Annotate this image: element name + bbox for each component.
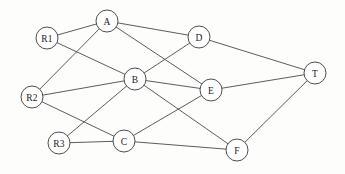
node-circle-d[interactable] — [188, 26, 210, 48]
graph-node-b[interactable]: B — [124, 68, 146, 90]
node-circle-r1[interactable] — [36, 27, 58, 49]
graph-node-d[interactable]: D — [188, 26, 210, 48]
graph-node-f[interactable]: F — [226, 139, 248, 161]
graph-node-r2[interactable]: R2 — [21, 86, 43, 108]
node-circle-e[interactable] — [200, 79, 222, 101]
graph-node-c[interactable]: C — [113, 130, 135, 152]
graph-edge-e-t — [222, 75, 304, 88]
node-circle-c[interactable] — [113, 130, 135, 152]
node-circle-a[interactable] — [96, 10, 118, 32]
node-circle-r2[interactable] — [21, 86, 43, 108]
edge-layer — [40, 23, 307, 149]
graph-node-e[interactable]: E — [200, 79, 222, 101]
graph-node-r1[interactable]: R1 — [36, 27, 58, 49]
node-circle-t[interactable] — [304, 62, 326, 84]
graph-edge-r2-c — [42, 102, 114, 137]
graph-edge-r1-b — [57, 43, 125, 75]
graph-edge-r2-b — [43, 81, 124, 95]
graph-edge-c-f — [135, 142, 226, 149]
node-circle-f[interactable] — [226, 139, 248, 161]
graph-node-r3[interactable]: R3 — [48, 132, 70, 154]
graph-canvas: R1R2R3ABCDEFT — [0, 0, 345, 174]
graph-edge-b-e — [146, 81, 200, 89]
graph-edge-r1-a — [58, 24, 97, 35]
graph-edge-f-t — [245, 81, 307, 143]
node-circle-r3[interactable] — [48, 132, 70, 154]
graph-edge-b-d — [144, 43, 190, 73]
graph-edge-r3-c — [70, 141, 113, 142]
graph-diagram: R1R2R3ABCDEFT — [0, 0, 345, 174]
node-circle-b[interactable] — [124, 68, 146, 90]
graph-edge-a-d — [118, 23, 188, 35]
graph-node-a[interactable]: A — [96, 10, 118, 32]
graph-node-t[interactable]: T — [304, 62, 326, 84]
graph-edge-d-t — [210, 40, 305, 69]
